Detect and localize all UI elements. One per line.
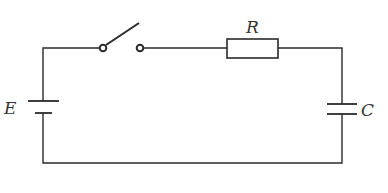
battery: E [3, 98, 59, 118]
capacitor: C [327, 100, 374, 120]
switch [100, 23, 144, 51]
wire-top-left [43, 48, 99, 101]
resistor-body [227, 39, 278, 58]
capacitor-label: C [361, 100, 374, 120]
switch-terminal-right [137, 45, 144, 52]
wire-resistor-to-capacitor [278, 48, 342, 104]
wire-bottom [43, 113, 342, 163]
battery-label: E [3, 98, 17, 118]
circuit-diagram: E R C [0, 0, 388, 193]
resistor: R [227, 17, 278, 58]
switch-terminal-left [100, 45, 107, 52]
wires [43, 48, 342, 163]
switch-blade [106, 23, 139, 45]
resistor-label: R [245, 17, 259, 37]
